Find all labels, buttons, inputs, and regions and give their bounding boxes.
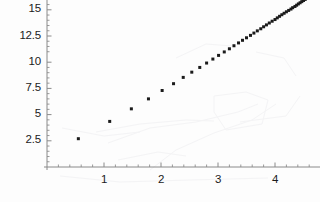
- y-axis-tick-label: 10: [29, 55, 41, 67]
- x-axis-tick-label: 4: [255, 173, 295, 185]
- y-axis-tick-label: 5: [35, 107, 41, 119]
- data-point: [259, 27, 262, 30]
- data-point: [262, 25, 265, 28]
- axes: [44, 0, 320, 170]
- y-axis-tick-label: 12.5: [19, 29, 41, 41]
- data-point: [228, 47, 231, 50]
- data-point: [232, 44, 235, 47]
- y-axis-tick-label: 7.5: [26, 81, 41, 93]
- x-axis-tick-label: 3: [198, 173, 238, 185]
- data-point: [271, 20, 274, 23]
- y-axis-tick-label: 15: [29, 2, 41, 14]
- x-axis-tick-label: 1: [84, 173, 124, 185]
- data-point: [241, 39, 244, 42]
- y-axis-tick-label: 2.5: [26, 133, 41, 145]
- data-point: [108, 120, 111, 123]
- data-point: [256, 29, 259, 32]
- scan-artifacts: [60, 44, 300, 182]
- data-point: [147, 97, 150, 100]
- data-point: [304, 0, 307, 1]
- data-point: [245, 36, 248, 39]
- data-point: [237, 41, 240, 44]
- data-point: [161, 89, 164, 92]
- x-axis-tick-label: 2: [141, 173, 181, 185]
- plot-canvas: [0, 0, 320, 202]
- scatter-plot-figure: 2.557.51012.5151234: [0, 0, 320, 202]
- data-point: [130, 107, 133, 110]
- data-point: [182, 76, 185, 79]
- data-point: [211, 58, 214, 61]
- data-point: [205, 62, 208, 65]
- data-point: [217, 54, 220, 57]
- data-point: [77, 137, 80, 140]
- data-point: [252, 32, 255, 35]
- data-point: [223, 50, 226, 53]
- data-point: [190, 71, 193, 74]
- data-point: [198, 66, 201, 69]
- data-series-data: [77, 0, 319, 140]
- data-point: [265, 23, 268, 26]
- data-point: [172, 82, 175, 85]
- data-point: [268, 22, 271, 25]
- data-point: [249, 34, 252, 37]
